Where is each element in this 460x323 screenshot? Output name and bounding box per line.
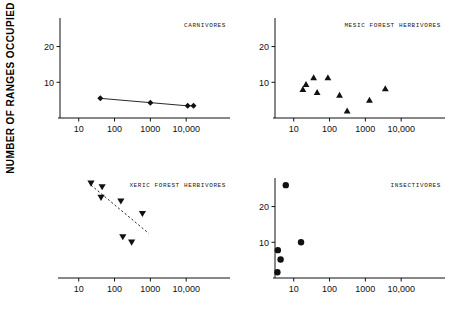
panel-title: CARNIVORES	[184, 22, 226, 29]
x-tick-label: 10	[289, 284, 299, 294]
x-tick-label: 1000	[355, 284, 375, 294]
y-tick-label: 20	[259, 42, 269, 52]
x-tick-label: 100	[322, 284, 337, 294]
data-point-triangle-up	[314, 89, 321, 95]
x-tick-label: 10,000	[172, 284, 200, 294]
data-point-diamond	[185, 103, 191, 109]
panel-title: XERIC FOREST HERBIVORES	[129, 182, 226, 189]
data-point-triangle-down	[87, 181, 94, 187]
data-point-triangle-up	[325, 74, 332, 80]
panel-bottom-right: 10100100010,0001020INSECTIVORES	[259, 178, 445, 294]
figure-panel-grid: 10100100010,0001020CARNIVORES10100100010…	[0, 0, 460, 323]
data-point-diamond	[97, 95, 103, 101]
data-point-circle	[283, 182, 289, 188]
data-point-triangle-up	[344, 107, 351, 113]
x-tick-label: 10,000	[172, 124, 200, 134]
data-point-triangle-down	[139, 211, 146, 217]
data-point-triangle-up	[310, 74, 317, 80]
panel-title: INSECTIVORES	[391, 182, 441, 189]
data-point-circle	[274, 269, 280, 275]
data-point-diamond	[147, 100, 153, 106]
x-tick-label: 10	[74, 124, 84, 134]
x-tick-label: 1000	[355, 124, 375, 134]
data-point-circle	[298, 239, 304, 245]
x-tick-label: 100	[107, 124, 122, 134]
panel-top-right: 10100100010,0001020MESIC FOREST HERBIVOR…	[259, 18, 445, 134]
data-point-triangle-down	[99, 184, 106, 190]
x-tick-label: 10	[74, 284, 84, 294]
x-tick-label: 10	[289, 124, 299, 134]
data-point-triangle-down	[128, 239, 135, 245]
y-tick-label: 10	[259, 238, 269, 248]
x-tick-label: 10,000	[387, 124, 415, 134]
x-tick-label: 100	[322, 124, 337, 134]
y-axis-title: NUMBER OF RANGES OCCUPIED	[5, 2, 16, 174]
trend-line-dashed	[91, 185, 149, 233]
y-tick-label: 10	[44, 78, 54, 88]
y-tick-label: 20	[259, 202, 269, 212]
figure-svg: 10100100010,0001020CARNIVORES10100100010…	[0, 0, 460, 323]
data-point-triangle-up	[382, 85, 389, 91]
panel-title: MESIC FOREST HERBIVORES	[344, 22, 441, 29]
x-tick-label: 1000	[140, 124, 160, 134]
x-tick-label: 1000	[140, 284, 160, 294]
data-point-circle	[275, 247, 281, 253]
panel-top-left: 10100100010,0001020CARNIVORES	[44, 18, 230, 134]
series-connector-line	[100, 98, 193, 106]
data-point-circle	[277, 256, 283, 262]
data-point-triangle-up	[366, 97, 373, 103]
x-tick-label: 100	[107, 284, 122, 294]
x-tick-label: 10,000	[387, 284, 415, 294]
y-tick-label: 10	[259, 78, 269, 88]
data-point-triangle-down	[119, 234, 126, 240]
data-point-diamond	[190, 103, 196, 109]
data-point-triangle-down	[97, 195, 104, 201]
data-point-triangle-up	[303, 81, 310, 87]
panel-bottom-left: 10100100010,000XERIC FOREST HERBIVORES	[58, 181, 230, 294]
y-tick-label: 20	[44, 42, 54, 52]
data-point-triangle-up	[336, 92, 343, 98]
data-point-triangle-down	[117, 198, 124, 204]
